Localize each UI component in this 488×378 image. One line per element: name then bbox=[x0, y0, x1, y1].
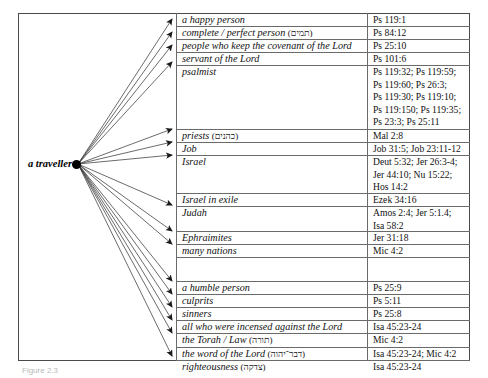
row-label-hebrew: (כהנים) bbox=[212, 131, 238, 141]
row-label-hebrew: (דבר־יהוה) bbox=[268, 349, 306, 359]
row-reference: Ps 119:1 bbox=[367, 14, 470, 26]
row-reference: Deut 5:32; Jer 26:3-4; Jer 44:10; Nu 15:… bbox=[367, 156, 470, 193]
row-label: culprits bbox=[176, 295, 367, 307]
table-row: JudahAmos 2:4; Jer 5:1.4; Isa 58:2 bbox=[176, 207, 470, 232]
row-reference: Isa 45:23-24; Mic 4:2 bbox=[367, 348, 470, 360]
row-label: Israel in exile bbox=[176, 194, 367, 206]
row-reference: Job 31:5; Job 23:11-12 bbox=[367, 143, 470, 155]
hub-node-label: a traveller bbox=[14, 157, 72, 170]
table-row: culpritsPs 5:11 bbox=[176, 295, 470, 308]
table-row: Israel in exileEzek 34:16 bbox=[176, 194, 470, 207]
table-row: sinnersPs 25:8 bbox=[176, 308, 470, 321]
table-row: IsraelDeut 5:32; Jer 26:3-4; Jer 44:10; … bbox=[176, 156, 470, 194]
hub-node-dot bbox=[72, 160, 81, 169]
row-reference: Ps 5:11 bbox=[367, 295, 470, 307]
row-label: Judah bbox=[176, 207, 367, 231]
table-row: people who keep the covenant of the Lord… bbox=[176, 40, 470, 53]
row-reference: Ps 25:10 bbox=[367, 40, 470, 52]
row-label-hebrew: (תורה) bbox=[249, 335, 272, 345]
table-row: many nationsMic 4:2 bbox=[176, 245, 470, 258]
table-row bbox=[176, 258, 470, 282]
row-reference: Mic 4:2 bbox=[367, 334, 470, 347]
row-label: complete / perfect person (תמים) bbox=[176, 27, 367, 39]
table-row: the Torah / Law (תורה)Mic 4:2 bbox=[176, 334, 470, 348]
row-label: many nations bbox=[176, 245, 367, 257]
row-reference: Ps 101:6 bbox=[367, 53, 470, 65]
row-reference: Ps 119:32; Ps 119:59; Ps 119:60; Ps 26:3… bbox=[367, 66, 470, 129]
row-reference: Amos 2:4; Jer 5:1.4; Isa 58:2 bbox=[367, 207, 470, 231]
figure-container: a traveller a happy personPs 119:1comple… bbox=[0, 0, 488, 378]
row-label-hebrew: (תמים) bbox=[288, 28, 313, 38]
table-row: psalmistPs 119:32; Ps 119:59; Ps 119:60;… bbox=[176, 66, 470, 130]
row-reference: Mal 2:8 bbox=[367, 130, 470, 142]
table-row: all who were incensed against the LordIs… bbox=[176, 321, 470, 334]
row-label: sinners bbox=[176, 308, 367, 320]
row-reference: Ps 84:12 bbox=[367, 27, 470, 39]
row-label: Ephraimites bbox=[176, 232, 367, 244]
row-reference: Ps 25:9 bbox=[367, 282, 470, 294]
table-row: JobJob 31:5; Job 23:11-12 bbox=[176, 143, 470, 156]
table-row: EphraimitesJer 31:18 bbox=[176, 232, 470, 245]
row-label: people who keep the covenant of the Lord bbox=[176, 40, 367, 52]
table-row: complete / perfect person (תמים)Ps 84:12 bbox=[176, 27, 470, 40]
row-reference: Ezek 34:16 bbox=[367, 194, 470, 206]
row-label: righteousness (צדקה) bbox=[176, 361, 367, 374]
row-reference: Isa 45:23-24 bbox=[367, 361, 470, 374]
figure-caption: Figure 2.3 bbox=[22, 366, 58, 376]
table-row: a humble personPs 25:9 bbox=[176, 282, 470, 295]
table-row: righteousness (צדקה)Isa 45:23-24 bbox=[176, 361, 470, 374]
row-reference: Jer 31:18 bbox=[367, 232, 470, 244]
row-reference: Ps 25:8 bbox=[367, 308, 470, 320]
table-row: servant of the LordPs 101:6 bbox=[176, 53, 470, 66]
row-label: the Torah / Law (תורה) bbox=[176, 334, 367, 347]
row-label: servant of the Lord bbox=[176, 53, 367, 65]
row-label: a happy person bbox=[176, 14, 367, 26]
row-label-hebrew: (צדקה) bbox=[241, 362, 266, 372]
row-label: Israel bbox=[176, 156, 367, 193]
row-label: psalmist bbox=[176, 66, 367, 129]
row-label: the word of the Lord (דבר־יהוה) bbox=[176, 348, 367, 360]
row-label: Job bbox=[176, 143, 367, 155]
row-reference: Isa 45:23-24 bbox=[367, 321, 470, 333]
table-row: a happy personPs 119:1 bbox=[176, 14, 470, 27]
row-label: priests (כהנים) bbox=[176, 130, 367, 142]
row-label: all who were incensed against the Lord bbox=[176, 321, 367, 333]
table-row: priests (כהנים)Mal 2:8 bbox=[176, 130, 470, 143]
table-row: the word of the Lord (דבר־יהוה)Isa 45:23… bbox=[176, 348, 470, 361]
row-label: a humble person bbox=[176, 282, 367, 294]
rows-container: a happy personPs 119:1complete / perfect… bbox=[176, 13, 470, 361]
row-reference bbox=[367, 258, 470, 281]
row-label bbox=[176, 258, 367, 281]
row-reference: Mic 4:2 bbox=[367, 245, 470, 257]
